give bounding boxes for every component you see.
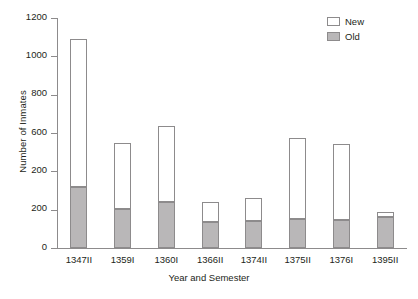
legend-item: New	[327, 15, 364, 28]
chart-legend: NewOld	[327, 15, 364, 45]
y-axis-tick-label: 800	[31, 87, 47, 98]
legend-label: Old	[345, 31, 360, 42]
bar-segment-new	[245, 198, 262, 221]
bar-segment-new	[377, 212, 394, 218]
x-axis-tick-label: 1366II	[197, 254, 223, 265]
x-axis-tick-label: 1347II	[66, 254, 92, 265]
x-axis-tick-label: 1395II	[372, 254, 398, 265]
x-axis-tick-label: 1374II	[241, 254, 267, 265]
x-axis-tick-label: 1375II	[284, 254, 310, 265]
bar-segment-new	[114, 143, 131, 209]
bar-segment-old	[289, 219, 306, 248]
y-axis-tick-label: 200	[31, 164, 47, 175]
legend-item: Old	[327, 30, 364, 43]
x-axis-line	[57, 248, 407, 249]
bar-chart: Number of Inmates 020020060080010001200 …	[0, 0, 418, 299]
y-axis-title: Number of Inmates	[17, 62, 28, 202]
y-axis-tick-label: 0	[42, 241, 47, 252]
legend-label: New	[345, 16, 364, 27]
bar-segment-new	[333, 144, 350, 221]
bar-segment-old	[202, 222, 219, 248]
bar-segment-old	[333, 220, 350, 248]
x-axis-title: Year and Semester	[0, 272, 418, 283]
bar-segment-new	[202, 202, 219, 222]
bar-segment-old	[377, 217, 394, 248]
x-axis-tick-label: 1359I	[111, 254, 135, 265]
legend-swatch-new	[327, 17, 340, 26]
x-axis-tick-label: 1360I	[154, 254, 178, 265]
x-axis-tick-label: 1376I	[329, 254, 353, 265]
legend-swatch-old	[327, 32, 340, 41]
bar-segment-old	[158, 202, 175, 248]
plot-area: 020020060080010001200 1347II1359I1360I13…	[57, 18, 407, 248]
bar-segment-new	[289, 138, 306, 219]
y-axis-tick-label: 1200	[26, 11, 47, 22]
bar-segment-old	[245, 221, 262, 248]
bar-segment-new	[70, 39, 87, 187]
y-axis-tick-label: 200	[31, 202, 47, 213]
y-axis-tick: 0	[51, 248, 57, 249]
bar-segment-new	[158, 126, 175, 202]
y-axis-tick-label: 600	[31, 126, 47, 137]
bar-segment-old	[70, 187, 87, 248]
y-axis-tick-label: 1000	[26, 49, 47, 60]
bar-segment-old	[114, 209, 131, 248]
bars-layer	[57, 18, 407, 248]
